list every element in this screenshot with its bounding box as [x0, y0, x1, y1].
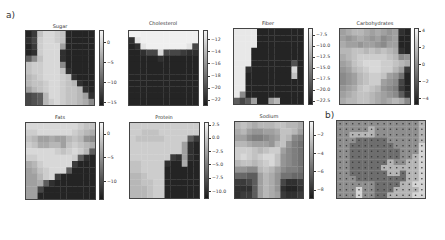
- heatmap-cell: [352, 85, 358, 92]
- cell-marker: [415, 161, 417, 163]
- heatmap-cell: [84, 129, 90, 136]
- heatmap-cell: [54, 50, 60, 56]
- cell-marker: [364, 194, 366, 196]
- heatmap-cell: [142, 186, 148, 193]
- heatmap-cell: [26, 50, 32, 56]
- heatmap-cell: [159, 173, 165, 180]
- heatmap-cell: [135, 80, 141, 86]
- cell-marker: [377, 167, 379, 169]
- cell-marker: [402, 172, 404, 174]
- heatmap-cell: [32, 93, 38, 99]
- cell-marker: [402, 194, 404, 196]
- heatmap-cell: [381, 67, 387, 74]
- heatmap-cell: [60, 37, 66, 43]
- heatmap-cell: [159, 161, 165, 168]
- colorbar-tick-label: −17.5: [316, 76, 330, 81]
- heatmap-cell: [142, 129, 148, 136]
- cell-marker: [383, 161, 385, 163]
- cell-marker: [364, 189, 366, 191]
- heatmap-cell: [275, 173, 281, 180]
- heatmap-cell: [381, 79, 387, 86]
- heatmap-cell: [26, 80, 32, 86]
- heatmap-cell: [393, 85, 399, 92]
- heatmap-cell: [72, 186, 78, 193]
- heatmap-cell: [175, 56, 181, 62]
- heatmap-cell: [32, 142, 38, 149]
- heatmap-cell: [234, 92, 240, 99]
- heatmap-cell: [136, 123, 142, 130]
- heatmap-cell: [84, 193, 90, 199]
- heatmap-cell: [274, 85, 280, 92]
- heatmap-cell: [280, 42, 286, 49]
- cell-marker: [402, 178, 404, 180]
- heatmap-cell: [71, 43, 77, 49]
- heatmap-cell: [49, 37, 55, 43]
- heatmap-cell: [169, 99, 175, 105]
- heatmap-cell: [346, 29, 352, 36]
- heatmap-cell: [37, 74, 43, 80]
- cell-marker: [396, 156, 398, 158]
- cell-marker: [346, 167, 348, 169]
- heatmap-cell: [176, 186, 182, 193]
- heatmap-cell: [297, 154, 303, 161]
- heatmap-cell: [135, 62, 141, 68]
- cell-marker: [396, 183, 398, 185]
- heatmap-cell: [71, 68, 77, 74]
- heatmap-cell: [83, 50, 89, 56]
- heatmap-cell: [169, 68, 175, 74]
- heatmap-cell: [375, 29, 381, 36]
- heatmap-cell: [72, 167, 78, 174]
- heatmap-cell: [77, 74, 83, 80]
- heatmap-cell: [280, 79, 286, 86]
- heatmap-cell: [84, 180, 90, 187]
- heatmap-cell: [234, 98, 240, 104]
- heatmap-cell: [235, 135, 241, 142]
- heatmap-cell: [61, 193, 67, 199]
- heatmap-cell: [66, 123, 72, 130]
- heatmap-cell: [129, 43, 135, 49]
- heatmap-cell: [393, 42, 399, 49]
- heatmap-cell: [274, 29, 280, 36]
- heatmap-cell: [164, 43, 170, 49]
- heatmap-cell: [275, 128, 281, 135]
- heatmap-cell: [182, 186, 188, 193]
- heatmap-cell: [49, 74, 55, 80]
- colorbar-tick-label: −2.5: [212, 149, 223, 154]
- cell-marker: [421, 189, 423, 191]
- heatmap-cell: [241, 179, 247, 186]
- heatmap-cell: [32, 186, 38, 193]
- heatmap-cell: [49, 50, 55, 56]
- heatmap-cell: [169, 43, 175, 49]
- heatmap-cell: [66, 142, 72, 149]
- heatmap-cell: [170, 186, 176, 193]
- cell-marker: [408, 161, 410, 163]
- heatmap-cell: [175, 93, 181, 99]
- heatmap-cell: [43, 50, 49, 56]
- heatmap-cell: [130, 142, 136, 149]
- heatmap-cell: [404, 48, 410, 55]
- heatmap-cell: [26, 136, 32, 143]
- heatmap-cell: [55, 186, 61, 193]
- heatmap-cell: [175, 80, 181, 86]
- heatmap-cell: [43, 167, 49, 174]
- cell-marker: [358, 172, 360, 174]
- heatmap-svg: [235, 122, 303, 198]
- heatmap-svg: [26, 123, 95, 199]
- heatmap-cell: [26, 161, 32, 168]
- heatmap-cell: [269, 54, 275, 61]
- heatmap-cell: [175, 43, 181, 49]
- heatmap-cell: [234, 48, 240, 55]
- heatmap-cell: [158, 50, 164, 56]
- heatmap-cell: [257, 54, 263, 61]
- heatmap-cell: [346, 60, 352, 67]
- heatmap-cell: [393, 29, 399, 36]
- heatmap-cell: [292, 160, 298, 167]
- colorbar-sodium: [309, 121, 314, 199]
- heatmap-cell: [375, 79, 381, 86]
- heatmap-cell: [292, 60, 298, 67]
- heatmap-cell: [269, 179, 275, 186]
- heatmap-cell: [55, 193, 61, 199]
- heatmap-cell: [147, 173, 153, 180]
- heatmap-cell: [193, 173, 199, 180]
- cell-marker: [415, 194, 417, 196]
